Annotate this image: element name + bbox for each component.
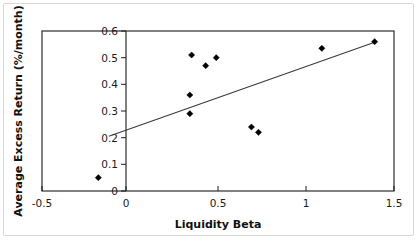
x-tick-label-1: 1 [303, 197, 310, 209]
data-point [255, 129, 261, 135]
scatter-plot: 0 0.1 0.2 0.3 0.4 0.5 0.6 -0.5 0 0.5 1 1… [0, 0, 419, 241]
y-tick-label-0: 0 [111, 185, 118, 197]
data-point [248, 124, 254, 130]
y-tick-label-0.4: 0.4 [101, 78, 118, 90]
data-point [203, 63, 209, 69]
data-point [372, 39, 378, 45]
x-tick-label--0.5: -0.5 [32, 197, 53, 209]
data-point [187, 111, 193, 117]
data-point [187, 92, 193, 98]
x-tick-label-1.5: 1.5 [386, 197, 403, 209]
data-point [95, 175, 101, 181]
chart-figure: 0 0.1 0.2 0.3 0.4 0.5 0.6 -0.5 0 0.5 1 1… [0, 0, 419, 241]
y-axis-ticks [121, 31, 126, 191]
y-tick-label-0.6: 0.6 [101, 25, 118, 37]
y-tick-label-0.1: 0.1 [101, 158, 118, 170]
plot-frame [42, 31, 394, 191]
y-tick-label-0.3: 0.3 [101, 105, 118, 117]
data-point-group [95, 39, 378, 181]
y-tick-label-0.5: 0.5 [101, 52, 118, 64]
data-point [213, 55, 219, 61]
data-point [189, 52, 195, 58]
x-axis-ticks [42, 186, 394, 191]
x-tick-label-0.5: 0.5 [210, 197, 227, 209]
y-axis-title: Average Excess Return (%/month) [12, 5, 25, 216]
x-axis-title: Liquidity Beta [175, 218, 262, 231]
trend-line [109, 42, 375, 136]
x-tick-label-0: 0 [123, 197, 130, 209]
data-point [319, 45, 325, 51]
